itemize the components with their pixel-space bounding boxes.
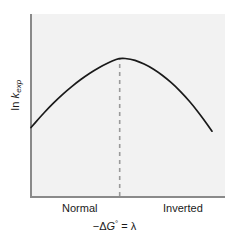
x-axis-label-symbol: G [106, 220, 115, 232]
marcus-theory-figure: ln kexp Normal Inverted −ΔG° = λ [0, 0, 229, 247]
y-axis-label: ln kexp [9, 65, 23, 125]
x-axis-label: −ΔG° = λ [0, 219, 229, 232]
y-axis-line [30, 14, 32, 198]
y-axis-label-symbol: k [9, 93, 21, 99]
region-label-normal: Normal [62, 202, 97, 214]
y-axis-label-prefix: ln [9, 98, 21, 110]
x-axis-label-tail: = λ [118, 220, 136, 232]
y-axis-label-subscript: exp [14, 80, 23, 93]
x-axis-label-minus-delta: −Δ [93, 220, 107, 232]
x-axis-line [30, 196, 225, 198]
region-label-inverted: Inverted [163, 202, 203, 214]
plot-area [30, 14, 225, 196]
